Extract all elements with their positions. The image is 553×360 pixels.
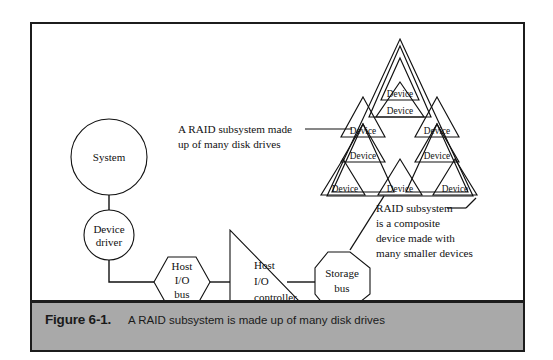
figure-caption-label: Figure 6-1. [45,312,111,327]
figure-root: System Device driver Host I/O bus [0,0,553,360]
connector-driver-to-hostbus [109,260,154,282]
diagram-canvas: System Device driver Host I/O bus [32,24,523,302]
node-storage-bus[interactable]: Storage bus [315,252,370,302]
storage-bus-label-line1: Storage [325,267,359,279]
device-8-label: Device [387,184,413,194]
figure-caption-text: A RAID subsystem is made up of many disk… [128,312,385,326]
device-2-label: Device [387,106,413,116]
device-5-label: Device [350,151,376,161]
annotation-right-line4: many smaller devices [376,247,473,259]
system-label: System [93,151,126,163]
host-io-bus-label-line3: bus [174,288,189,300]
storage-bus-label-line2: bus [334,282,349,294]
device-1-label: Device [387,89,413,99]
node-system[interactable]: System [71,119,147,195]
device-4-label: Device [424,126,450,136]
annotation-left-line2: up of many disk drives [178,138,281,150]
node-host-io-controller[interactable]: Host I/O controller [230,230,300,302]
device-driver-label-line1: Device [93,223,124,235]
host-io-controller-label-line2: I/O [254,275,269,287]
host-io-controller-label-line1: Host [254,259,275,271]
node-device-driver[interactable]: Device driver [84,210,134,260]
host-io-bus-label-line2: I/O [175,274,190,286]
raid-subsystem-triangle[interactable]: Device Device Device Device Device [321,39,477,196]
annotation-right-line3: device made with [376,232,455,244]
annotation-right: RAID subsystem is a composite device mad… [376,198,476,259]
device-9-label: Device [442,184,468,194]
device-driver-label-line2: driver [96,236,123,248]
node-host-io-bus[interactable]: Host I/O bus [154,257,210,302]
figure-caption-bar: Figure 6-1. A RAID subsystem is made up … [32,300,523,350]
host-io-bus-label-line1: Host [172,260,193,272]
annotation-right-leader-line [466,198,476,208]
annotation-left-line1: A RAID subsystem made [178,123,292,135]
device-6-label: Device [424,151,450,161]
annotation-left: A RAID subsystem made up of many disk dr… [178,123,352,150]
annotation-right-line2: is a composite [376,217,440,229]
device-7-label: Device [332,184,358,194]
figure-frame: System Device driver Host I/O bus [30,22,525,352]
diagram-illustration: System Device driver Host I/O bus [32,24,523,302]
annotation-right-line1: RAID subsystem [376,202,453,214]
device-3-label: Device [350,126,376,136]
